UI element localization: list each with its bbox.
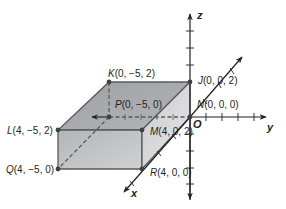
front-face: [58, 130, 142, 169]
label-J: J(0, 0, 2): [197, 75, 237, 86]
label-L: L(4, −5, 2): [7, 125, 53, 136]
vertex-M: [140, 128, 145, 133]
vertex-Q: [56, 167, 61, 172]
y-axis-label: y: [266, 121, 274, 133]
vertex-L: [56, 128, 61, 133]
vertex-K: [107, 80, 112, 85]
label-K: K(0, −5, 2): [108, 68, 155, 79]
vertex-P: [107, 115, 112, 120]
origin-label: O: [193, 118, 202, 130]
label-Q: Q(4, −5, 0): [6, 164, 54, 175]
label-P: P(0, −5, 0): [115, 99, 162, 110]
label-N: N(0, 0, 0): [197, 99, 239, 110]
z-axis-label: z: [196, 9, 203, 21]
label-M: M(4, 0, 2): [150, 126, 193, 137]
label-R: R(4, 0, 0): [150, 167, 192, 178]
vertex-J: [188, 80, 193, 85]
vertex-N: [188, 115, 193, 120]
vertex-R: [140, 167, 145, 172]
coordinate-box-diagram: z y x O K(0, −5, 2) P(0, −5, 0) J(0, 0, …: [0, 0, 286, 209]
x-axis-label: x: [130, 187, 138, 199]
